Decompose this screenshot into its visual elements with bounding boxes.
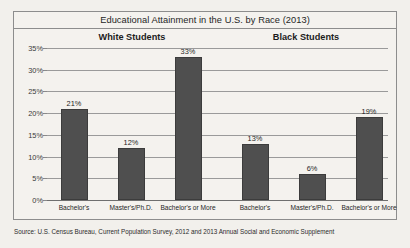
y-axis-tick-label: 20% xyxy=(28,109,43,118)
y-axis-tick-label: 5% xyxy=(32,174,43,183)
y-axis-tick-label: 25% xyxy=(28,87,43,96)
bar xyxy=(356,117,383,200)
y-axis-tick-label: 30% xyxy=(28,65,43,74)
group-header-white-students: White Students xyxy=(62,32,202,42)
bar-value-label: 13% xyxy=(248,134,263,143)
source-note: Source: U.S. Census Bureau, Current Popu… xyxy=(14,228,334,235)
x-axis-category-label: Bachelor's or More xyxy=(160,204,215,211)
chart-figure: Educational Attainment in the U.S. by Ra… xyxy=(0,0,410,248)
bar-value-label: 19% xyxy=(362,107,377,116)
x-axis-category-label: Master's/Ph.D. xyxy=(109,204,152,211)
x-axis-category-label: Master's/Ph.D. xyxy=(290,204,333,211)
bar-value-label: 33% xyxy=(181,47,196,56)
chart-frame: Educational Attainment in the U.S. by Ra… xyxy=(13,11,397,220)
x-axis-category-label: Bachelor's or More xyxy=(341,204,396,211)
chart-title: Educational Attainment in the U.S. by Ra… xyxy=(100,15,310,25)
y-axis-tick-mark xyxy=(43,157,47,158)
y-axis-tick-mark xyxy=(43,113,47,114)
y-axis-tick-label: 10% xyxy=(28,152,43,161)
bar xyxy=(299,174,326,200)
bar-value-label: 12% xyxy=(124,138,139,147)
y-axis-tick-mark xyxy=(43,48,47,49)
bar-value-label: 6% xyxy=(307,164,318,173)
gridline xyxy=(47,48,388,49)
gridline xyxy=(47,70,388,71)
y-axis-tick-label: 15% xyxy=(28,130,43,139)
group-header-black-students: Black Students xyxy=(236,32,376,42)
gridline xyxy=(47,157,388,158)
gridline xyxy=(47,91,388,92)
plot-area: 0%5%10%15%20%25%30%35%21%Bachelor's12%Ma… xyxy=(47,48,388,200)
gridline xyxy=(47,113,388,114)
y-axis-tick-mark xyxy=(43,91,47,92)
y-axis-tick-mark xyxy=(43,178,47,179)
y-axis-tick-label: 35% xyxy=(28,44,43,53)
bar xyxy=(175,57,202,200)
bar-value-label: 21% xyxy=(67,99,82,108)
chart-title-bar: Educational Attainment in the U.S. by Ra… xyxy=(14,12,396,29)
x-axis-category-label: Bachelor's xyxy=(240,204,271,211)
gridline xyxy=(47,200,388,201)
y-axis-tick-mark xyxy=(43,135,47,136)
gridline xyxy=(47,135,388,136)
y-axis-tick-label: 0% xyxy=(32,196,43,205)
x-axis-category-label: Bachelor's xyxy=(59,204,90,211)
bar xyxy=(242,144,269,200)
bar xyxy=(61,109,88,200)
y-axis-tick-mark xyxy=(43,70,47,71)
gridline xyxy=(47,178,388,179)
y-axis-tick-mark xyxy=(43,200,47,201)
bar xyxy=(118,148,145,200)
